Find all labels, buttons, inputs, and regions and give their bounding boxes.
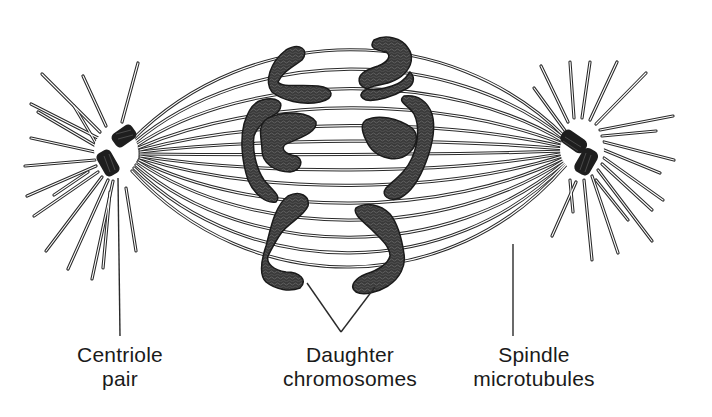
label-daughter-line2: chromosomes xyxy=(262,367,438,391)
label-centriole-line2: pair xyxy=(52,367,188,391)
label-daughter-chromosomes: Daughter chromosomes xyxy=(262,343,438,391)
spindle-microtubules xyxy=(132,50,566,267)
leader-daughter-left xyxy=(307,283,341,332)
spindle-microtubules-inner xyxy=(132,50,566,267)
label-centriole-pair: Centriole pair xyxy=(52,343,188,391)
label-spindle-microtubules: Spindle microtubules xyxy=(448,343,620,391)
label-spindle-line2: microtubules xyxy=(448,367,620,391)
label-daughter-line1: Daughter xyxy=(262,343,438,367)
label-spindle-line1: Spindle xyxy=(448,343,620,367)
leader-centriole xyxy=(118,178,120,336)
leader-daughter-right xyxy=(341,287,375,332)
label-centriole-line1: Centriole xyxy=(52,343,188,367)
